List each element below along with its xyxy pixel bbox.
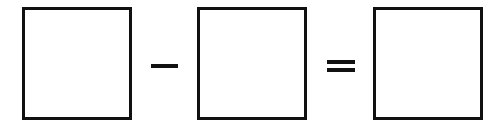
minus-bar — [151, 64, 178, 68]
minuend-box[interactable] — [22, 7, 132, 120]
equals-sign-label: = — [0, 0, 1, 1]
minuend-input[interactable] — [25, 10, 129, 117]
minus-sign-label: − — [0, 0, 1, 1]
equals-bottom-bar — [327, 68, 355, 72]
subtrahend-box[interactable] — [197, 7, 307, 120]
difference-box[interactable] — [373, 7, 483, 120]
equals-top-bar — [327, 60, 355, 64]
difference-input[interactable] — [376, 10, 480, 117]
subtrahend-input[interactable] — [200, 10, 304, 117]
